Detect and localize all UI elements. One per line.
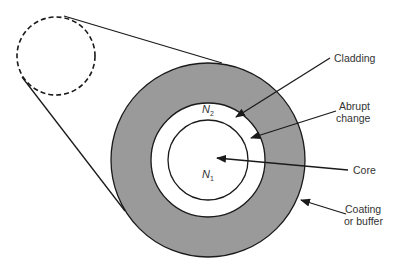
label-core: Core	[353, 164, 376, 176]
label-abrupt-line2: change	[336, 112, 370, 124]
label-abrupt-line1: Abrupt	[336, 100, 370, 112]
label-coating-line2: or buffer	[344, 215, 383, 227]
fiber-diagram: Cladding Abrupt change Core Coating or b…	[0, 0, 396, 269]
diagram-graphics	[0, 0, 396, 269]
arrow-coating	[301, 200, 346, 214]
label-cladding: Cladding	[334, 52, 375, 64]
symbol-n2: N2	[202, 103, 214, 117]
magnify-line-bottom	[22, 77, 125, 211]
dashed-fiber-circle	[17, 17, 95, 95]
symbol-n1: N1	[202, 168, 214, 182]
label-coating: Coating or buffer	[344, 203, 383, 227]
label-coating-line1: Coating	[344, 203, 383, 215]
label-abrupt-change: Abrupt change	[336, 100, 370, 124]
